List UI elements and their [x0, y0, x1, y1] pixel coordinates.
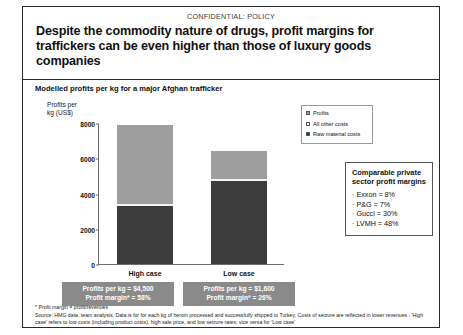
comparable-item-gucci-text: Gucci = 30%: [356, 209, 397, 218]
plot-area: 8000 6000 4000 2000 0 High case Lo: [98, 124, 284, 265]
bar-segment-raw-material-costs-low: [211, 181, 267, 264]
bar-high-case[interactable]: High case: [117, 125, 173, 264]
callout-low-case: Profits per kg = $1,600 Profit margin* =…: [183, 282, 295, 306]
slide-frame: CONFIDENTIAL: POLICY Despite the commodi…: [22, 6, 440, 328]
comparable-item-pg: ·P&G = 7%: [352, 200, 426, 210]
legend-label-profits: Profits: [313, 110, 329, 117]
legend-label-all-other-costs: All other costs: [313, 121, 348, 128]
comparable-item-exxon: ·Exxon = 8%: [352, 190, 426, 200]
footnotes: * Profit margin = profit/revenues Source…: [35, 304, 427, 326]
y-tick-mark-0: [96, 265, 99, 266]
comparable-item-pg-text: P&G = 7%: [356, 200, 390, 209]
callout-high-case: Profits per kg = $4,500 Profit margin* =…: [62, 282, 174, 306]
bar-segment-all-other-costs-low: [211, 179, 267, 181]
page-title: Despite the commodity nature of drugs, p…: [36, 24, 428, 70]
legend-label-raw-material-costs: Raw material costs: [313, 131, 360, 138]
bar-segment-all-other-costs-high: [117, 204, 173, 206]
footnote-profit-margin: * Profit margin = profit/revenues: [35, 304, 427, 310]
legend-item-raw-material-costs[interactable]: Raw material costs: [306, 131, 368, 138]
legend-swatch-all-other-costs-icon: [306, 122, 310, 126]
x-axis-label-high-case: High case: [117, 270, 173, 277]
chart-subtitle: Modelled profits per kg for a major Afgh…: [35, 84, 222, 93]
classification-banner: CONFIDENTIAL: POLICY: [23, 12, 439, 21]
callout-low-case-profits: Profits per kg = $1,600: [185, 285, 293, 294]
comparable-item-lvmh-text: LVMH = 48%: [356, 219, 398, 228]
chart-legend: Profits All other costs Raw material cos…: [301, 105, 373, 144]
bar-segment-profits-low: [211, 151, 267, 179]
y-tick-mark-8000: [96, 124, 99, 125]
bullet-icon-pg: ·: [352, 200, 354, 209]
footnote-source: Source: HMG data, team analysis. Data is…: [35, 312, 427, 325]
callout-low-case-margin: Profit margin* = 26%: [185, 294, 293, 303]
callout-high-case-margin: Profit margin* = 58%: [64, 294, 172, 303]
y-tick-mark-2000: [96, 229, 99, 230]
legend-item-all-other-costs[interactable]: All other costs: [306, 121, 368, 128]
comparable-item-exxon-text: Exxon = 8%: [356, 190, 395, 199]
legend-swatch-raw-material-costs-icon: [306, 132, 310, 136]
comparable-margins-title: Comparable private sector profit margins: [352, 168, 426, 187]
comparable-item-gucci: ·Gucci = 30%: [352, 209, 426, 219]
title-divider: [23, 79, 439, 80]
y-axis-title-line-1: Profits per: [47, 101, 77, 109]
bar-segment-raw-material-costs-high: [117, 206, 173, 264]
bullet-icon-exxon: ·: [352, 190, 354, 199]
bullet-icon-lvmh: ·: [352, 219, 354, 228]
legend-swatch-profits-icon: [306, 111, 310, 115]
y-tick-mark-4000: [96, 194, 99, 195]
bar-segment-profits-high: [117, 125, 173, 204]
bar-low-case[interactable]: Low case: [211, 151, 267, 264]
y-axis-title-line-2: kg (US$): [47, 109, 77, 117]
x-axis-label-low-case: Low case: [211, 270, 267, 277]
callout-high-case-profits: Profits per kg = $4,500: [64, 285, 172, 294]
comparable-margins-box: Comparable private sector profit margins…: [345, 162, 433, 236]
comparable-item-lvmh: ·LVMH = 48%: [352, 219, 426, 229]
y-tick-mark-6000: [96, 159, 99, 160]
legend-item-profits[interactable]: Profits: [306, 110, 368, 117]
bullet-icon-gucci: ·: [352, 209, 354, 218]
y-axis-title: Profits per kg (US$): [47, 101, 77, 118]
chart-area: Profits per kg (US$) 8000 6000 4000 2000…: [35, 99, 431, 299]
